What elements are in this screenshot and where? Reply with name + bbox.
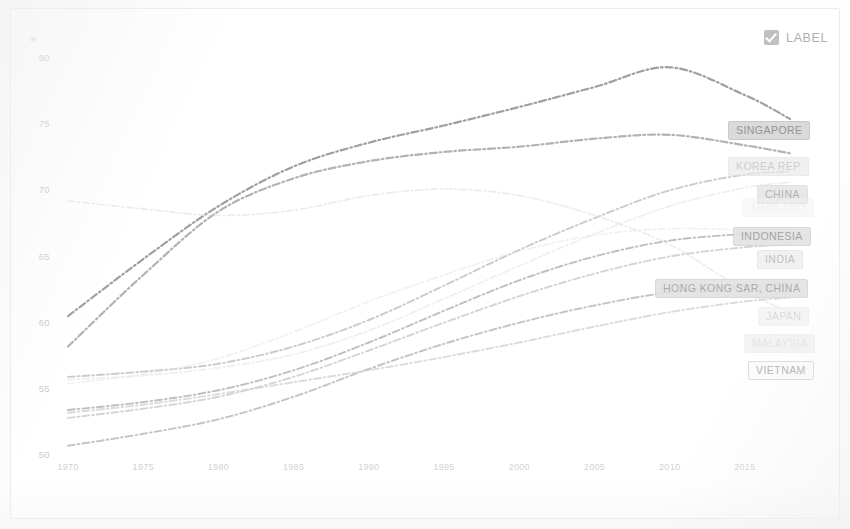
x-axis-tick-label: 2005 [574,462,614,472]
series-end-label[interactable]: JAPAN [758,307,809,326]
x-axis-tick-label: 1995 [424,462,464,472]
y-axis-tick-label: 80 [24,52,50,63]
x-axis-tick-label: 2010 [650,462,690,472]
series-end-label[interactable]: INDONESIA [733,227,811,246]
checkbox-checked-icon[interactable] [764,30,779,45]
series-line-hong-kong-sar-china [68,283,790,446]
x-axis-tick-label: 1985 [274,462,314,472]
y-axis-unit-label: % [29,35,36,44]
series-line-korea-rep [68,135,790,347]
series-end-label[interactable]: THAILAND [742,198,814,217]
y-axis-tick-label: 55 [24,383,50,394]
chart-plot-area [0,0,850,529]
line-chart-svg [0,0,850,529]
x-axis-tick-label: 1970 [48,462,88,472]
y-axis-tick-label: 50 [24,449,50,460]
series-end-label[interactable]: INDIA [757,250,803,269]
series-end-label[interactable]: VIETNAM [748,361,814,380]
series-line-indonesia [68,233,790,410]
y-axis-tick-label: 60 [24,317,50,328]
y-axis-tick-label: 75 [24,118,50,129]
x-axis-tick-label: 2000 [499,462,539,472]
x-axis-tick-label: 1975 [123,462,163,472]
label-toggle[interactable]: LABEL [764,30,828,45]
x-axis-tick-label: 1990 [349,462,389,472]
x-axis-tick-label: 2015 [725,462,765,472]
y-axis-tick-label: 65 [24,251,50,262]
y-axis-tick-label: 70 [24,184,50,195]
series-end-label[interactable]: KOREA REP [728,157,809,176]
series-line-vietnam [68,298,790,413]
label-toggle-text: LABEL [786,31,828,45]
series-end-label[interactable]: HONG KONG SAR, CHINA [655,279,808,298]
x-axis-tick-label: 1980 [198,462,238,472]
series-line-india [68,245,790,418]
series-end-label[interactable]: SINGAPORE [728,121,810,140]
chart-screenshot: % LABEL 50556065707580 19701975198019851… [0,0,850,529]
series-end-label[interactable]: MALAYSIA [744,334,815,353]
